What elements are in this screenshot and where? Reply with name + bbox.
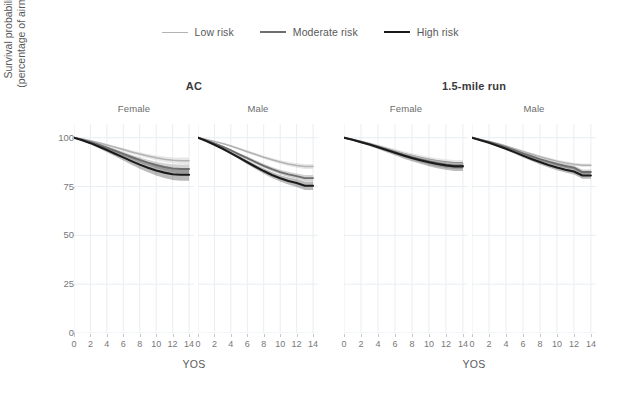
x-tick-mark xyxy=(472,334,473,337)
legend-line-icon xyxy=(260,31,286,33)
x-tick-label: 14 xyxy=(184,339,194,349)
facet-label: Female xyxy=(74,103,194,114)
y-axis-title: Survival probability (percentage of airm… xyxy=(2,0,28,142)
x-tick-mark xyxy=(574,334,575,337)
facet-label: Male xyxy=(198,103,318,114)
x-tick-label: 8 xyxy=(409,339,414,349)
legend-item-low-risk[interactable]: Low risk xyxy=(162,26,234,38)
x-axis-title-right: YOS xyxy=(340,358,608,370)
x-tick-mark xyxy=(523,334,524,337)
x-tick-mark xyxy=(446,334,447,337)
x-tick-mark xyxy=(90,334,91,337)
x-tick-label: 14 xyxy=(458,339,468,349)
panel-ac-female xyxy=(74,124,194,333)
legend-item-label: Low risk xyxy=(195,26,234,38)
y-tick-label: 100 xyxy=(48,132,74,143)
x-tick-label: 12 xyxy=(569,339,579,349)
x-tick-label: 12 xyxy=(292,339,302,349)
x-tick-mark xyxy=(231,334,232,337)
x-tick-label: 14 xyxy=(308,339,318,349)
x-tick-label: 8 xyxy=(137,339,142,349)
x-axis-title-left: YOS xyxy=(68,358,320,370)
x-tick-mark xyxy=(140,334,141,337)
x-tick-label: 0 xyxy=(341,339,346,349)
legend-item-label: Moderate risk xyxy=(293,26,358,38)
x-axis-ticks: 02468101214 xyxy=(74,334,194,348)
x-tick-mark xyxy=(489,334,490,337)
x-tick-mark xyxy=(247,334,248,337)
chart-legend: Low riskModerate riskHigh risk xyxy=(0,26,620,38)
x-tick-label: 10 xyxy=(151,339,161,349)
x-tick-mark xyxy=(198,334,199,337)
x-axis-ticks: 02468101214 xyxy=(472,334,596,348)
x-tick-label: 4 xyxy=(503,339,508,349)
x-tick-mark xyxy=(429,334,430,337)
x-tick-label: 4 xyxy=(104,339,109,349)
x-tick-mark xyxy=(313,334,314,337)
y-tick-label: 0 xyxy=(48,327,74,338)
panel-1-5-mile-run-male xyxy=(472,124,596,333)
legend-line-icon xyxy=(384,31,410,33)
x-tick-mark xyxy=(264,334,265,337)
x-tick-mark xyxy=(173,334,174,337)
x-tick-label: 2 xyxy=(486,339,491,349)
x-tick-mark xyxy=(280,334,281,337)
x-tick-label: 2 xyxy=(88,339,93,349)
x-tick-mark xyxy=(297,334,298,337)
x-tick-mark xyxy=(361,334,362,337)
x-tick-mark xyxy=(591,334,592,337)
panel-plot-area xyxy=(198,124,318,333)
legend-item-moderate-risk[interactable]: Moderate risk xyxy=(260,26,358,38)
x-tick-mark xyxy=(378,334,379,337)
x-tick-label: 2 xyxy=(358,339,363,349)
x-tick-mark xyxy=(463,334,464,337)
x-tick-mark xyxy=(123,334,124,337)
y-tick-label: 50 xyxy=(48,229,74,240)
panel-ac-male xyxy=(198,124,318,333)
x-tick-label: 0 xyxy=(71,339,76,349)
x-axis-ticks: 02468101214 xyxy=(198,334,318,348)
y-axis-ticks: 0255075100 xyxy=(44,0,74,398)
x-tick-mark xyxy=(189,334,190,337)
legend-item-high-risk[interactable]: High risk xyxy=(384,26,459,38)
super-title-run: 1.5-mile run xyxy=(340,80,608,92)
x-tick-label: 6 xyxy=(121,339,126,349)
x-tick-mark xyxy=(74,334,75,337)
x-tick-label: 2 xyxy=(212,339,217,349)
legend-item-label: High risk xyxy=(417,26,459,38)
x-tick-label: 10 xyxy=(424,339,434,349)
x-tick-mark xyxy=(395,334,396,337)
y-tick-label: 25 xyxy=(48,278,74,289)
x-tick-mark xyxy=(506,334,507,337)
x-tick-label: 0 xyxy=(195,339,200,349)
x-tick-label: 6 xyxy=(245,339,250,349)
x-tick-label: 12 xyxy=(441,339,451,349)
x-tick-label: 14 xyxy=(586,339,596,349)
facet-label: Male xyxy=(472,103,596,114)
panel-1-5-mile-run-female xyxy=(344,124,468,333)
x-tick-label: 12 xyxy=(168,339,178,349)
x-tick-mark xyxy=(412,334,413,337)
x-tick-label: 4 xyxy=(228,339,233,349)
x-tick-label: 8 xyxy=(537,339,542,349)
survival-curve-moderate-risk xyxy=(198,138,313,178)
super-title-ac: AC xyxy=(68,80,320,92)
x-tick-label: 0 xyxy=(469,339,474,349)
panel-plot-area xyxy=(472,124,596,333)
x-tick-label: 6 xyxy=(520,339,525,349)
survival-figure: Low riskModerate riskHigh risk AC 1.5-mi… xyxy=(0,0,620,398)
x-tick-mark xyxy=(344,334,345,337)
x-tick-mark xyxy=(214,334,215,337)
x-tick-label: 8 xyxy=(261,339,266,349)
x-tick-label: 10 xyxy=(552,339,562,349)
panel-plot-area xyxy=(344,124,468,333)
x-tick-mark xyxy=(156,334,157,337)
legend-line-icon xyxy=(162,32,188,33)
x-axis-ticks: 02468101214 xyxy=(344,334,468,348)
panel-plot-area xyxy=(74,124,194,333)
x-tick-label: 10 xyxy=(275,339,285,349)
facet-label: Female xyxy=(344,103,468,114)
x-tick-mark xyxy=(540,334,541,337)
y-tick-label: 75 xyxy=(48,181,74,192)
x-tick-mark xyxy=(557,334,558,337)
